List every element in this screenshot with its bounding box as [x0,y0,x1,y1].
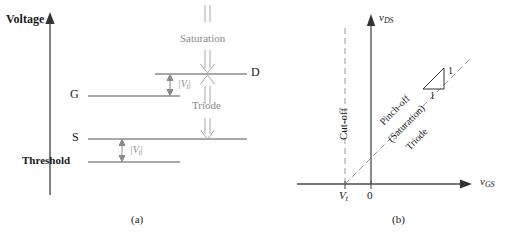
panel-a-saturation-arrow-top [205,5,210,22]
figure-root: Voltage D G S Threshold |Vt| |Vt| Satura… [0,0,518,237]
panel-a-gap-arrow-lower [119,140,125,162]
panel-b-slope-triangle [423,68,444,89]
panel-a-saturation-label: Saturation [180,33,225,44]
panel-a-gap-label-lower: |Vt| [130,145,143,157]
panel-b-x-axis-label: vGS [480,176,495,189]
figure-vector-layer [0,0,518,237]
panel-a-source-label: S [72,131,79,143]
panel-a-axis [45,12,54,195]
panel-a-threshold-label: Threshold [22,155,70,166]
panel-a-drain-label: D [251,66,260,78]
panel-a-triode-arrow-down [201,118,215,139]
vt-symbol: V [339,189,346,201]
y-axis-subscript: DS [384,16,394,25]
panel-b-slope-run-label: 1 [430,91,435,101]
panel-a-saturation-arrow-bottom [201,50,215,73]
gap-lower-bar-open: |V [130,144,139,155]
x-axis-subscript: GS [485,180,495,189]
gap-upper-bar-open: |V [178,78,187,89]
panel-a-gap-label-upper: |Vt| [178,79,191,91]
panel-b-caption: (b) [392,213,405,225]
panel-a-triode-label: Triode [192,100,221,111]
panel-a-voltage-axis-label: Voltage [6,13,44,25]
vt-subscript: t [346,194,348,203]
gap-lower-bar-close: | [141,144,143,155]
panel-b-zero-tick-label: 0 [367,190,373,201]
panel-b-y-axis [367,14,375,184]
panel-b-y-axis-label: vDS [379,12,394,25]
panel-b-cutoff-label: Cut-off [338,108,349,140]
panel-a-gate-label: G [70,88,79,100]
panel-b-vt-tick-label: Vt [339,190,348,203]
gap-upper-bar-close: | [189,78,191,89]
panel-b-slope-rise-label: 1 [448,66,453,76]
panel-a-gap-arrow-upper [167,75,173,96]
panel-a-caption: (a) [131,213,143,225]
panel-b-x-axis [297,180,472,189]
